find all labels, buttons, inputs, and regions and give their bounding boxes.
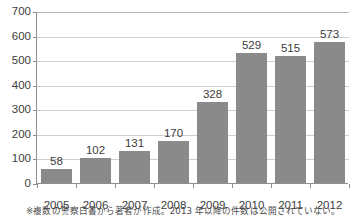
y-axis-label: 400: [12, 80, 31, 92]
bar-chart-figure: 0100200300400500600700 58102131170328529…: [0, 0, 358, 222]
y-axis-tick: [33, 86, 37, 87]
bar: [41, 169, 73, 183]
gridline: [37, 12, 349, 13]
y-axis-label: 600: [12, 31, 31, 43]
bar: [236, 53, 268, 183]
chart-title-cropped: [0, 0, 358, 8]
bar-value-label: 515: [281, 43, 300, 55]
bar-value-label: 170: [164, 128, 183, 140]
bar-value-label: 131: [125, 138, 144, 150]
bar-value-label: 529: [242, 40, 261, 52]
y-axis-label: 200: [12, 129, 31, 141]
x-axis-tick: [349, 184, 350, 188]
gridline: [37, 37, 349, 38]
x-axis-tick: [193, 184, 194, 188]
x-axis-tick: [232, 184, 233, 188]
bar-value-label: 58: [50, 156, 63, 168]
x-axis-tick: [76, 184, 77, 188]
plot-area: 0100200300400500600700 58102131170328529…: [36, 12, 348, 184]
y-axis-tick: [33, 159, 37, 160]
bar: [158, 141, 190, 183]
bar-value-label: 573: [320, 29, 339, 41]
y-axis-tick: [33, 135, 37, 136]
bar: [314, 42, 346, 183]
y-axis-tick: [33, 61, 37, 62]
y-axis-tick: [33, 12, 37, 13]
y-axis-tick: [33, 110, 37, 111]
bar-value-label: 328: [203, 89, 222, 101]
x-axis-tick: [271, 184, 272, 188]
chart-footnote: ※複数の警察白書から著者が作成。2013 年以降の件数は公開されていない。: [26, 204, 341, 216]
bar: [275, 56, 307, 183]
y-axis-tick: [33, 37, 37, 38]
x-axis-tick: [310, 184, 311, 188]
bar: [197, 102, 229, 183]
bar-value-label: 102: [86, 145, 105, 157]
y-axis-label: 300: [12, 105, 31, 117]
x-axis-tick: [37, 184, 38, 188]
y-axis-label: 500: [12, 55, 31, 67]
y-axis-label: 0: [25, 178, 31, 190]
bar: [119, 151, 151, 183]
y-axis-label: 100: [12, 154, 31, 166]
bar: [80, 158, 112, 183]
x-axis-tick: [115, 184, 116, 188]
y-axis-label: 700: [12, 6, 31, 18]
x-axis-tick: [154, 184, 155, 188]
